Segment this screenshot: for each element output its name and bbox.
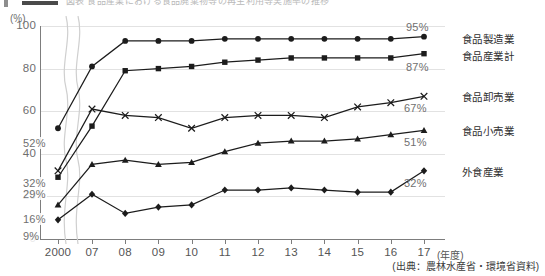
data-point-marker — [89, 161, 96, 167]
figure-title-text: 図表 食品産業における食品廃棄物等の再生利用等実施率の推移 — [66, 0, 329, 7]
data-point-marker — [421, 93, 428, 100]
start-value-label: 9% — [22, 230, 40, 242]
series-label-x: 食品卸売業 — [462, 89, 514, 104]
data-point-marker — [354, 135, 361, 141]
data-point-marker — [288, 112, 295, 119]
gridline — [41, 154, 445, 155]
data-point-marker — [288, 36, 294, 42]
series-5 — [55, 167, 427, 223]
x-tick-mark — [358, 240, 359, 244]
end-value-label: 51% — [404, 136, 427, 148]
x-tick-mark — [391, 240, 392, 244]
y-tick-label: 80 — [4, 62, 36, 74]
y-tick-label: 100 — [4, 19, 36, 31]
data-point-marker — [122, 210, 128, 217]
start-value-label: 16% — [22, 213, 47, 225]
x-tick-mark — [58, 240, 59, 244]
gridline — [41, 111, 445, 112]
data-point-marker — [288, 138, 295, 144]
data-point-marker — [288, 184, 294, 191]
series-label-circle: 食品製造業 — [462, 31, 514, 46]
x-tick-mark — [125, 240, 126, 244]
series-line — [58, 54, 424, 178]
x-tick-mark — [225, 240, 226, 244]
series-label-diamond: 外食産業 — [462, 164, 504, 179]
axis-break-icon — [60, 16, 86, 244]
data-point-marker — [321, 138, 328, 144]
data-point-marker — [188, 159, 195, 165]
data-point-marker — [388, 55, 393, 60]
source-note: (出典：農林水産省・環境省資料) — [392, 258, 539, 273]
figure-title-strip: 図表 食品産業における食品廃棄物等の再生利用等実施率の推移 — [0, 0, 545, 7]
data-point-marker — [255, 57, 260, 62]
x-tick-mark — [424, 240, 425, 244]
series-label-square: 食品産業計 — [462, 48, 514, 63]
x-tick-mark — [291, 240, 292, 244]
data-point-marker — [421, 167, 427, 174]
gridline — [41, 69, 445, 70]
series-line — [58, 96, 424, 171]
series-line — [58, 171, 424, 220]
data-point-marker — [122, 157, 129, 163]
x-tick-mark — [158, 240, 159, 244]
data-point-marker — [354, 189, 360, 196]
series-2 — [55, 51, 426, 180]
data-point-marker — [388, 99, 395, 106]
y-axis-line — [40, 26, 41, 240]
gridline — [41, 196, 445, 197]
data-point-marker — [155, 203, 161, 210]
series-1 — [55, 34, 427, 131]
data-point-marker — [155, 161, 162, 167]
data-point-marker — [222, 60, 227, 65]
data-point-marker — [355, 55, 360, 60]
series-3 — [55, 93, 428, 174]
data-point-marker — [122, 112, 129, 119]
data-point-marker — [388, 36, 394, 42]
data-point-marker — [189, 38, 195, 44]
end-value-label: 87% — [406, 61, 429, 73]
title-accent-bar — [4, 0, 8, 7]
data-point-marker — [388, 189, 394, 196]
data-point-marker — [255, 36, 261, 42]
data-point-marker — [222, 186, 228, 193]
data-point-marker — [387, 131, 394, 137]
end-value-label: 95% — [406, 21, 429, 33]
data-point-marker — [322, 36, 328, 42]
data-point-marker — [354, 104, 361, 111]
data-point-marker — [89, 123, 94, 128]
data-point-marker — [321, 114, 328, 121]
data-point-marker — [322, 55, 327, 60]
series-label-triangle: 食品小売業 — [462, 123, 514, 138]
data-point-marker — [321, 186, 327, 193]
data-point-marker — [421, 51, 426, 56]
x-tick-mark — [258, 240, 259, 244]
gridline — [41, 26, 445, 27]
data-point-marker — [421, 127, 428, 133]
data-point-marker — [188, 125, 195, 132]
data-point-marker — [188, 201, 194, 208]
data-point-marker — [222, 36, 228, 42]
x-axis-line — [40, 239, 445, 240]
data-point-marker — [255, 186, 261, 193]
start-value-label: 32% — [22, 177, 47, 189]
end-value-label: 32% — [404, 177, 427, 189]
data-point-marker — [155, 114, 162, 121]
data-point-marker — [156, 38, 162, 44]
data-point-marker — [122, 38, 128, 44]
x-tick-mark — [92, 240, 93, 244]
start-value-label: 29% — [22, 188, 47, 200]
data-point-marker — [255, 112, 262, 119]
data-point-marker — [255, 140, 262, 146]
x-tick-mark — [192, 240, 193, 244]
end-value-label: 67% — [404, 102, 427, 114]
y-tick-label: 60 — [4, 104, 36, 116]
title-label-swatch — [22, 1, 58, 5]
data-point-marker — [355, 36, 361, 42]
chart-figure: 図表 食品産業における食品廃棄物等の再生利用等実施率の推移 (%) 100806… — [0, 0, 545, 276]
x-tick-mark — [324, 240, 325, 244]
series-line — [58, 37, 424, 129]
series-line — [58, 130, 424, 205]
data-point-marker — [289, 55, 294, 60]
data-point-marker — [222, 114, 229, 121]
data-point-marker — [421, 34, 427, 40]
